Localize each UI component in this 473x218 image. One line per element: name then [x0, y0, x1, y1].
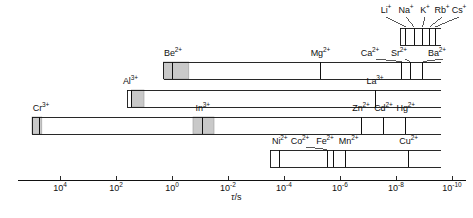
water-exchange-rate-chart: Li+Na+K+Rb+Cs+Be2+Mg2+Ca2+Sr2+Ba2+Al3+La…	[0, 0, 473, 218]
ion-label-Cd: Cd2+	[374, 104, 393, 113]
x-axis	[18, 176, 466, 180]
axis-tick-label: 10-4	[276, 184, 292, 193]
leader-Rb	[430, 17, 442, 27]
leader-Ba	[423, 59, 443, 62]
bar-row-alkali-row	[400, 28, 441, 45]
ion-label-Al: Al3+	[123, 77, 138, 86]
ion-label-Sr: Sr2+	[391, 49, 407, 58]
ion-label-Cu: Cu2+	[399, 137, 418, 146]
axis-tick-label: 10-6	[332, 184, 348, 193]
leader-Cs	[435, 17, 459, 27]
ion-label-Fe: Fe2+	[316, 137, 334, 146]
leader-Sr	[405, 59, 410, 62]
axis-tick-label: 100	[165, 184, 179, 193]
ion-label-Cs: Cs+	[452, 6, 467, 15]
ion-label-Li: Li+	[381, 6, 392, 15]
axis-tick-label: 10-8	[388, 184, 404, 193]
axis-tick-label: 102	[109, 184, 123, 193]
leader-Li	[386, 17, 406, 27]
ion-label-Mg: Mg2+	[311, 49, 331, 58]
bar-row-transition-metal-row	[270, 150, 441, 167]
ion-label-Be: Be2+	[164, 49, 182, 58]
ion-label-Co: Co2+	[291, 137, 310, 146]
ion-label-Ca: Ca2+	[361, 49, 380, 58]
ion-label-Cr: Cr3+	[33, 104, 50, 113]
ion-label-Mn: Mn2+	[339, 137, 359, 146]
bar-row-alkaline-earth-row	[164, 62, 441, 79]
bar-row-trivalent-row	[127, 90, 441, 107]
ion-label-Na: Na+	[398, 6, 413, 15]
ion-label-Ba: Ba2+	[428, 49, 446, 58]
ion-label-Hg: Hg2+	[397, 104, 416, 113]
ion-label-Zn: Zn2+	[352, 104, 370, 113]
shaded-range-box	[193, 117, 214, 134]
leader-Co	[306, 147, 327, 150]
ion-label-La: La3+	[366, 77, 383, 86]
leader-Ca	[376, 59, 402, 62]
axis-tick-label: 10-10	[442, 184, 461, 193]
ion-label-Rb: Rb+	[434, 6, 449, 15]
leader-Na	[406, 17, 414, 27]
shaded-range-box	[131, 90, 144, 107]
ion-label-Ni: Ni2+	[272, 137, 288, 146]
shaded-range-box	[164, 62, 189, 79]
bar-row-cr-in-zn-row	[32, 117, 441, 134]
ion-label-In: In3+	[196, 104, 211, 113]
axis-title: τ/s	[231, 193, 241, 202]
shaded-range-box	[32, 117, 42, 134]
ion-label-K: K+	[420, 6, 430, 15]
leader-K	[423, 17, 425, 27]
axis-tick-label: 104	[53, 184, 67, 193]
